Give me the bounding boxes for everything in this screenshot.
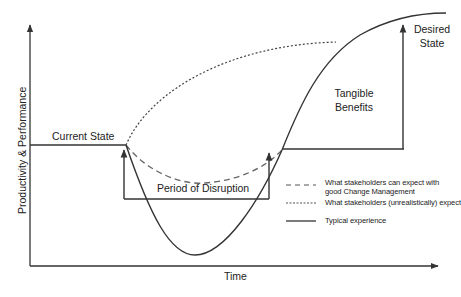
change-curve-diagram: [0, 0, 461, 297]
typical-experience-curve: [126, 13, 446, 255]
x-axis-label: Time: [224, 270, 247, 282]
tangible-benefits-label: Tangible Benefits: [328, 86, 380, 114]
current-state-label: Current State: [52, 130, 114, 142]
legend-item-solid: Typical experience: [320, 217, 386, 226]
legend-label-dotted: What stakeholders (unrealistically) expe…: [325, 199, 461, 208]
legend-item-dotted: What stakeholders (unrealistically) expe…: [320, 199, 461, 208]
period-of-disruption-label: Period of Disruption: [157, 182, 249, 194]
good-change-management-curve: [126, 145, 282, 183]
y-axis-label: Productivity & Performance: [16, 94, 28, 214]
desired-state-label: Desired State: [410, 22, 454, 50]
unrealistic-expectation-curve: [126, 42, 336, 145]
legend-label-solid: Typical experience: [325, 217, 386, 226]
legend-item-dashed: What stakeholders can expect with good C…: [320, 179, 440, 196]
legend-label-dashed: What stakeholders can expect with good C…: [325, 179, 440, 196]
